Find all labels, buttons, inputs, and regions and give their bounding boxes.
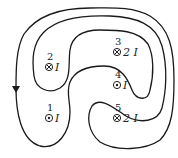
- wire-4-current: I: [122, 79, 128, 92]
- wire-1-label: 1: [47, 102, 53, 113]
- wire-2-cross-icon: [45, 63, 52, 70]
- wire-2-current: I: [54, 61, 60, 74]
- wire-1-dot-icon: [45, 114, 52, 121]
- wire-4-dot-icon: [113, 81, 120, 88]
- wire-5-label: 5: [115, 102, 121, 113]
- wire-1-current: I: [54, 112, 60, 125]
- wire-5-current: 2 I: [122, 112, 138, 125]
- ampere-loop-diagram: 2 I 3 2 I 4 I 1 I 5 2 I: [0, 0, 178, 158]
- direction-arrow-icon: [12, 86, 20, 93]
- wire-3-label: 3: [115, 36, 121, 47]
- wire-4-label: 4: [115, 69, 121, 80]
- wire-2-label: 2: [47, 51, 53, 62]
- amperian-loop-path: [16, 8, 174, 149]
- wire-3-cross-icon: [113, 48, 120, 55]
- wire-5-cross-icon: [113, 114, 120, 121]
- wire-3-current: 2 I: [122, 46, 138, 59]
